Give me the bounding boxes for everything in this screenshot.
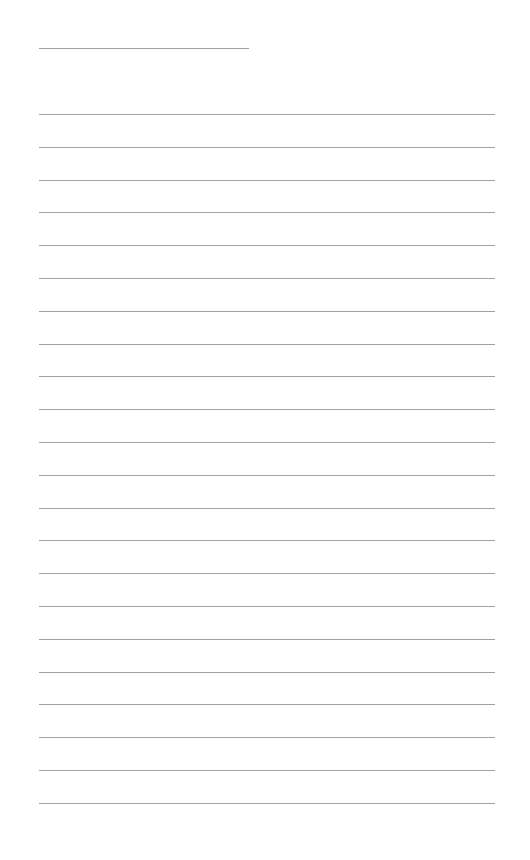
ruled-line xyxy=(39,508,495,509)
ruled-line xyxy=(39,704,495,705)
ruled-line xyxy=(39,672,495,673)
ruled-line xyxy=(39,311,495,312)
ruled-line xyxy=(39,376,495,377)
ruled-line xyxy=(39,639,495,640)
ruled-line xyxy=(39,737,495,738)
ruled-line xyxy=(39,803,495,804)
ruled-line xyxy=(39,278,495,279)
lined-paper-page xyxy=(0,0,530,860)
ruled-line xyxy=(39,770,495,771)
ruled-line xyxy=(39,180,495,181)
ruled-line xyxy=(39,442,495,443)
ruled-line xyxy=(39,212,495,213)
ruled-line xyxy=(39,245,495,246)
ruled-line xyxy=(39,114,495,115)
ruled-line xyxy=(39,606,495,607)
ruled-line xyxy=(39,147,495,148)
ruled-line xyxy=(39,409,495,410)
header-title-line xyxy=(39,48,249,49)
ruled-line xyxy=(39,573,495,574)
ruled-line xyxy=(39,540,495,541)
ruled-line xyxy=(39,344,495,345)
ruled-line xyxy=(39,475,495,476)
